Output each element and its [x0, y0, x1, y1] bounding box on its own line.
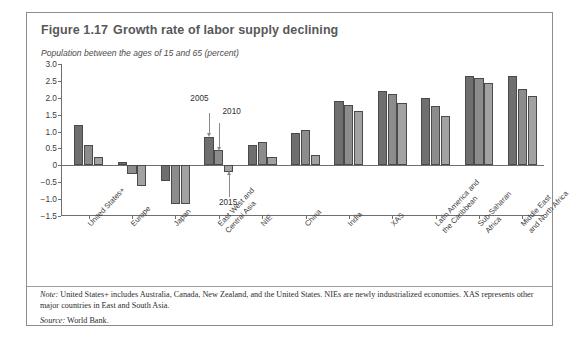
y-axis-tick-label: 2.0: [45, 93, 57, 103]
figure-title-text: Growth rate of labor supply declining: [113, 23, 338, 37]
x-axis-label-united-states: United States+: [86, 185, 127, 228]
x-axis-label-line: Japan: [172, 207, 193, 228]
figure-number: Figure 1.17: [41, 23, 108, 37]
y-axis-tick-label: −0.5: [41, 177, 57, 187]
y-axis-tick-mark: [58, 216, 61, 217]
y-axis-tick-label: 0.5: [45, 143, 57, 153]
x-axis-label-japan: Japan: [172, 207, 193, 229]
x-axis-label-nie: NIE: [259, 213, 275, 229]
page-title: Figure 1.17Growth rate of labor supply d…: [41, 23, 338, 37]
note-line: Note: United States+ includes Australia,…: [40, 289, 540, 311]
x-axis-label-europe: Europe: [129, 204, 153, 228]
footnotes: Note: United States+ includes Australia,…: [40, 289, 540, 327]
x-axis-label-line: NIE: [259, 213, 274, 228]
y-axis-tick-label: −1.5: [41, 211, 57, 221]
x-axis-label-line: India: [346, 210, 364, 228]
x-axis-label-line: XAS: [389, 211, 406, 228]
y-axis-tick-label: 0: [52, 160, 57, 170]
source-line: Source: World Bank.: [40, 315, 540, 326]
figure-card: Figure 1.17Growth rate of labor supply d…: [26, 12, 553, 326]
x-axis-label-india: India: [346, 210, 364, 229]
y-axis-tick-label: 3.0: [45, 59, 57, 69]
x-axis-label-line: United States+: [86, 185, 127, 228]
note-label: Note:: [40, 290, 58, 299]
x-axis-label-middle-east-and-north-africa: Middle Eastand North Africa: [519, 182, 570, 235]
x-axis-label-latin-america-and-the-caribbean: Latin America andthe Caribbean: [433, 178, 488, 235]
y-axis-tick-label: 1.5: [45, 110, 57, 120]
x-axis-label-line: China: [303, 207, 323, 228]
y-axis-tick-label: 1.0: [45, 127, 57, 137]
source-text: World Bank.: [65, 316, 109, 325]
note-text: United States+ includes Australia, Canad…: [40, 290, 533, 310]
chart-plot-area: 3.02.52.01.51.00.50−0.5−1.0−1.5 20052010…: [61, 64, 544, 216]
source-label: Source:: [40, 316, 65, 325]
y-axis-tick-label: 2.5: [45, 76, 57, 86]
x-axis-label-xas: XAS: [389, 211, 406, 229]
x-axis-label-east-west-and-central-asia: East West andCentral Asia: [216, 186, 263, 235]
x-axis-label-china: China: [303, 207, 323, 228]
x-axis-labels: United States+EuropeJapanEast West andCe…: [61, 64, 544, 216]
y-axis-tick-label: −1.0: [41, 194, 57, 204]
footnote-divider: [27, 286, 552, 287]
axis-caption: Population between the ages of 15 and 65…: [41, 48, 239, 58]
